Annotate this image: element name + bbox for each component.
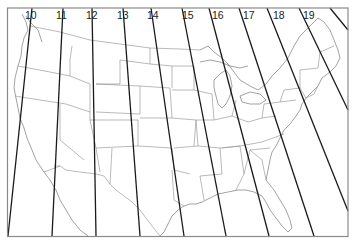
zone-line (182, 8, 226, 236)
map-canvas (0, 0, 357, 240)
state-boundaries (14, 14, 340, 236)
zone-label-16: 16 (212, 9, 224, 21)
utm-zone-map: 10 11 12 13 14 15 16 17 18 19 (0, 0, 357, 240)
zone-line (330, 8, 348, 30)
zone-line (239, 8, 314, 236)
zone-label-11: 11 (56, 9, 67, 21)
zone-line (299, 8, 348, 110)
zone-label-14: 14 (147, 9, 159, 21)
zone-label-18: 18 (273, 9, 285, 21)
zone-label-19: 19 (303, 9, 315, 21)
zone-line (267, 8, 348, 211)
zone-label-10: 10 (25, 9, 37, 21)
zone-line (8, 8, 32, 236)
zone-line (151, 8, 184, 236)
zone-line (92, 8, 96, 236)
zone-label-13: 13 (117, 9, 129, 21)
zone-boundaries (8, 8, 348, 236)
zone-label-15: 15 (182, 9, 194, 21)
zone-label-17: 17 (243, 9, 255, 21)
zone-label-12: 12 (86, 9, 98, 21)
zone-line (209, 8, 269, 236)
